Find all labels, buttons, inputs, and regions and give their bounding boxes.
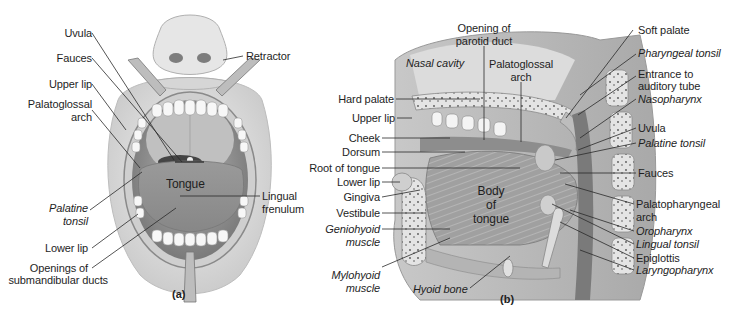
label-b-geniohyoid-line2: muscle (300, 236, 380, 248)
label-b-auditory-line1: Entrance to (638, 68, 693, 80)
label-a-upper-lip: Upper lip (30, 78, 92, 90)
label-b-lingual-tonsil: Lingual tonsil (636, 238, 699, 250)
label-a-lingual-frenulum-line2: frenulum (262, 203, 304, 215)
label-b-palatine-tonsil: Palatine tonsil (638, 137, 705, 149)
label-b-palatoglossal-arch-line2: arch (484, 71, 558, 83)
label-b-opening-parotid-line1: Opening of (448, 22, 520, 34)
label-b-gingiva: Gingiva (300, 191, 380, 203)
label-b-fauces: Fauces (638, 167, 673, 179)
label-b-nasal-cavity: Nasal cavity (406, 57, 464, 69)
label-b-root-of-tongue: Root of tongue (300, 162, 380, 174)
label-b-dorsum: Dorsum (300, 146, 380, 158)
label-a-palatine-tonsil-line1: Palatine (10, 202, 88, 214)
label-b-body-line2: of (466, 199, 516, 212)
label-b-palatopharyngeal-line1: Palatopharyngeal (636, 198, 720, 210)
label-b-lower-lip: Lower lip (300, 176, 380, 188)
label-b-palatopharyngeal-line2: arch (636, 211, 657, 223)
label-b-hyoid-bone: Hyoid bone (413, 283, 468, 295)
label-b-auditory-line2: auditory tube (638, 80, 700, 92)
label-b-epiglottis: Epiglottis (636, 252, 680, 264)
label-a-palatine-tonsil-line2: tonsil (10, 215, 88, 227)
label-a-openings-line1: Openings of (0, 262, 88, 274)
label-b-cheek: Cheek (300, 132, 380, 144)
label-b-hard-palate: Hard palate (300, 93, 394, 105)
label-b-mylohyoid-line2: muscle (300, 282, 380, 294)
label-b-oropharynx: Oropharynx (636, 225, 692, 237)
label-b-pharyngeal-tonsil: Pharyngeal tonsil (638, 47, 721, 59)
label-b-soft-palate: Soft palate (638, 24, 690, 36)
panel-tag-a: (a) (172, 288, 185, 300)
label-a-palatoglossal-arch-line1: Palatoglossal (10, 98, 92, 110)
label-a-openings-line2: submandibular ducts (0, 274, 108, 286)
label-a-retractor: Retractor (246, 50, 290, 62)
label-a-palatoglossal-arch-line2: arch (10, 111, 92, 123)
label-a-tongue: Tongue (166, 178, 205, 191)
label-b-body-line3: tongue (466, 213, 516, 226)
panel-tag-b: (b) (500, 293, 514, 305)
label-a-lower-lip: Lower lip (10, 242, 88, 254)
label-b-body-line1: Body (466, 185, 516, 198)
figure-oral-cavity: Uvula Fauces Upper lip Palatoglossal arc… (0, 0, 736, 317)
label-b-palatoglossal-arch-line1: Palatoglossal (484, 58, 558, 70)
label-b-vestibule: Vestibule (300, 207, 380, 219)
label-b-mylohyoid-line1: Mylohyoid (300, 269, 380, 281)
label-b-uvula: Uvula (638, 122, 666, 134)
label-a-fauces: Fauces (30, 52, 92, 64)
label-b-nasopharynx: Nasopharynx (638, 93, 702, 105)
label-b-geniohyoid-line1: Geniohyoid (300, 223, 380, 235)
label-b-upper-lip: Upper lip (300, 112, 395, 124)
label-a-lingual-frenulum-line1: Lingual (262, 190, 297, 202)
label-b-laryngopharynx: Laryngopharynx (636, 264, 714, 276)
label-b-opening-parotid-line2: parotid duct (448, 35, 520, 47)
label-a-uvula: Uvula (30, 27, 92, 39)
